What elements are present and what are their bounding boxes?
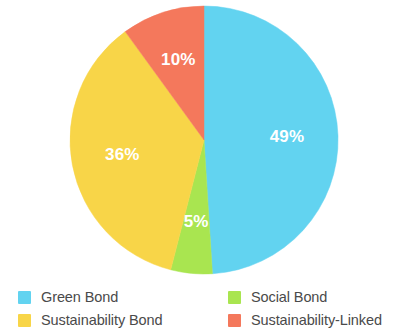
legend-column-left: Green Bond Sustainability Bond [18, 286, 228, 332]
legend-item-social-bond[interactable]: Social Bond [228, 286, 401, 309]
pie-svg: 49%5%36%10% [0, 0, 401, 282]
pie-slice-label-social-bond: 5% [184, 212, 209, 231]
legend-label-sustainability-bond: Sustainability Bond [41, 313, 162, 328]
legend-item-green-bond[interactable]: Green Bond [18, 286, 228, 309]
pie-slice-label-green-bond: 49% [270, 127, 305, 146]
legend-swatch-icon-sustainability-bond [18, 314, 31, 327]
legend-swatch-icon-social-bond [228, 291, 241, 304]
pie-chart-figure: 49%5%36%10% Green Bond Sustainability Bo… [0, 0, 401, 333]
chart-legend: Green Bond Sustainability Bond Social Bo… [0, 286, 401, 333]
legend-column-right: Social Bond Sustainability-Linked [228, 286, 401, 332]
legend-swatch-icon-sustainability-linked [228, 314, 241, 327]
legend-item-sustainability-bond[interactable]: Sustainability Bond [18, 309, 228, 332]
legend-item-sustainability-linked[interactable]: Sustainability-Linked [228, 309, 401, 332]
legend-label-social-bond: Social Bond [251, 290, 327, 305]
legend-swatch-icon-green-bond [18, 291, 31, 304]
pie-slice-label-sustainability-bond: 36% [105, 145, 140, 164]
pie-slice-label-sustainability-linked: 10% [161, 50, 196, 69]
legend-label-green-bond: Green Bond [41, 290, 118, 305]
pie-plot-area: 49%5%36%10% [0, 0, 401, 282]
legend-label-sustainability-linked: Sustainability-Linked [251, 313, 382, 328]
